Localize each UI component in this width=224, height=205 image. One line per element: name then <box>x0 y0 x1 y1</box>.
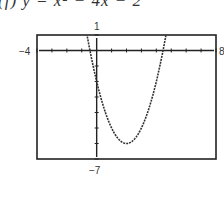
graph-window <box>0 0 224 205</box>
ymin-label: −7 <box>89 165 100 176</box>
xmin-label: −4 <box>19 46 30 57</box>
xmax-label: 8 <box>219 46 224 57</box>
window-frame <box>37 35 216 159</box>
ymax-label: 1 <box>94 21 100 32</box>
